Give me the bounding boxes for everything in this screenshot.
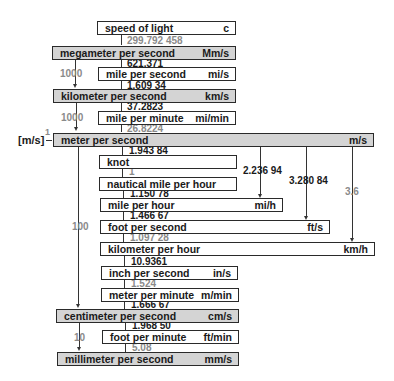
unit-meter-per-second: meter per second m/s (53, 133, 374, 147)
unit-name: kilometer per hour (108, 243, 200, 255)
arrow-head (77, 347, 81, 351)
unit-name: foot per minute (110, 331, 186, 343)
factor-Mm-to-km: 1000 (60, 68, 82, 79)
si-unit-factor: 1 (45, 127, 50, 138)
chain-connector (125, 322, 126, 330)
chain-connector (121, 35, 122, 45)
unit-name: millimeter per second (65, 353, 174, 365)
chain-connector (121, 103, 122, 111)
chain-connector (121, 125, 122, 132)
arrow-head (73, 84, 77, 88)
unit-nautical-mile-per-hour: nautical mile per hour (99, 177, 237, 191)
unit-meter-per-minute: meter per minute m/min (101, 288, 239, 302)
unit-name: centimeter per second (64, 310, 176, 322)
si-unit-symbol: m/s (22, 134, 41, 146)
unit-name: kilometer per second (61, 90, 167, 102)
chain-connector (123, 211, 124, 220)
chain-connector (125, 343, 126, 352)
unit-inch-per-second: inch per second in/s (101, 266, 238, 280)
chain-connector (122, 147, 123, 155)
unit-name: knot (107, 156, 129, 168)
unit-millimeter-per-second: millimeter per second mm/s (57, 352, 239, 366)
chain-connector (124, 256, 125, 266)
unit-name: meter per minute (109, 289, 194, 301)
chain-connector (121, 60, 122, 67)
unit-name: inch per second (109, 267, 190, 279)
unit-symbol: Mm/s (202, 47, 229, 59)
unit-foot-per-second: foot per second ft/s (100, 220, 330, 234)
unit-name: megameter per second (60, 47, 175, 59)
unit-mile-per-hour: mile per hour mi/h (100, 198, 283, 212)
unit-name: mile per minute (106, 112, 184, 124)
arrow-head (74, 127, 78, 131)
unit-symbol: ft/min (203, 331, 232, 343)
chain-connector (124, 279, 125, 288)
factor-m-s-to-km-h: 3.6 (345, 186, 359, 197)
chain-connector (123, 233, 124, 242)
unit-megameter-per-second: megameter per second Mm/s (52, 46, 236, 60)
factor-m-to-cm: 100 (72, 221, 89, 232)
factor-km-to-m: 1000 (61, 112, 83, 123)
unit-symbol: c (223, 22, 229, 34)
arrow-head (76, 304, 80, 308)
unit-centimeter-per-second: centimeter per second cm/s (56, 309, 239, 323)
unit-mile-per-minute: mile per minute mi/min (98, 111, 236, 125)
unit-symbol: in/s (213, 267, 231, 279)
factor-m-s-to-ft-s: 3.280 84 (289, 175, 328, 186)
unit-name: speed of light (105, 22, 173, 34)
unit-knot: knot (99, 155, 237, 169)
unit-symbol: cm/s (208, 310, 232, 322)
unit-name: meter per second (61, 134, 149, 146)
unit-mile-per-second: mile per second mi/s (98, 67, 236, 81)
unit-symbol: km/h (343, 243, 368, 255)
unit-symbol: mi/min (195, 112, 229, 124)
unit-symbol: mi/s (208, 68, 229, 80)
chain-factor: 299.792 458 (127, 35, 183, 46)
unit-symbol: mi/h (254, 199, 276, 211)
unit-symbol: m/min (201, 289, 232, 301)
si-unit-label: [m/s] (18, 134, 44, 146)
unit-symbol: km/s (205, 90, 229, 102)
unit-kilometer-per-second: kilometer per second km/s (53, 89, 236, 103)
unit-name: foot per second (108, 221, 187, 233)
unit-symbol: ft/s (307, 221, 323, 233)
chain-connector (123, 190, 124, 198)
unit-name: mile per hour (108, 199, 175, 211)
factor-m-s-to-mi-h: 2.236 94 (243, 165, 282, 176)
unit-kilometer-per-hour: kilometer per hour km/h (100, 242, 375, 256)
unit-symbol: m/s (349, 134, 367, 146)
unit-name: mile per second (106, 68, 186, 80)
factor-cm-to-mm: 10 (74, 332, 85, 343)
unit-name: nautical mile per hour (107, 178, 216, 190)
unit-foot-per-minute: foot per minute ft/min (102, 330, 239, 344)
unit-speed-of-light: speed of light c (97, 21, 236, 35)
unit-symbol: mm/s (205, 353, 232, 365)
si-connector (46, 140, 52, 141)
chain-connector (121, 81, 122, 89)
